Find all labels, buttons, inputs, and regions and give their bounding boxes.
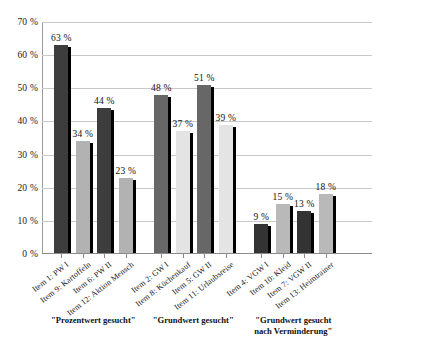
bar-value-label: 37 % — [173, 119, 194, 129]
x-tick — [326, 254, 327, 258]
y-tick-label: 20 % — [17, 183, 38, 193]
bar-shadow — [68, 47, 71, 253]
bar-fill — [119, 178, 133, 253]
x-tick — [126, 254, 127, 258]
bar: 23 % — [119, 178, 133, 253]
bar-shadow — [133, 180, 136, 253]
bar-value-label: 23 % — [116, 166, 137, 176]
bar-fill — [276, 204, 290, 253]
bar-fill — [197, 85, 211, 253]
bar: 44 % — [97, 108, 111, 253]
gridline — [42, 55, 372, 56]
x-tick — [161, 254, 162, 258]
y-axis: 0 %10 %20 %30 %40 %50 %60 %70 % — [0, 0, 38, 348]
bar-value-label: 34 % — [73, 129, 94, 139]
x-tick — [226, 254, 227, 258]
bar-shadow — [190, 133, 193, 253]
x-tick — [304, 254, 305, 258]
bar-fill — [297, 211, 311, 253]
bar-shadow — [290, 206, 293, 253]
bar-shadow — [268, 226, 271, 253]
bar: 13 % — [297, 211, 311, 253]
bar-value-label: 13 % — [294, 199, 315, 209]
bar-shadow — [233, 127, 236, 253]
bar-shadow — [311, 213, 314, 253]
bar-shadow — [111, 110, 114, 253]
bar-fill — [76, 141, 90, 253]
group-caption: "Grundwert gesucht nach Verminderung" — [228, 315, 358, 336]
bar: 39 % — [219, 125, 233, 253]
plot-area: 63 %34 %44 %23 %48 %37 %51 %39 %9 %15 %1… — [42, 22, 372, 254]
bar-fill — [254, 224, 268, 253]
y-tick-label: 10 % — [17, 216, 38, 226]
bar-chart: 0 %10 %20 %30 %40 %50 %60 %70 % 63 %34 %… — [0, 0, 436, 348]
x-axis-line — [42, 253, 372, 254]
bar: 34 % — [76, 141, 90, 253]
bar: 37 % — [176, 131, 190, 253]
y-axis-line — [42, 22, 43, 254]
bar-fill — [176, 131, 190, 253]
y-tick-label: 70 % — [17, 17, 38, 27]
bar: 48 % — [154, 95, 168, 253]
x-tick — [283, 254, 284, 258]
bar-shadow — [333, 196, 336, 253]
x-tick — [83, 254, 84, 258]
x-tick — [204, 254, 205, 258]
bar-fill — [97, 108, 111, 253]
bar: 15 % — [276, 204, 290, 253]
bar-fill — [154, 95, 168, 253]
bar-value-label: 51 % — [194, 73, 215, 83]
y-tick-label: 60 % — [17, 50, 38, 60]
bar-value-label: 15 % — [273, 192, 294, 202]
bar-value-label: 18 % — [316, 182, 337, 192]
bar-fill — [219, 125, 233, 253]
gridline — [42, 22, 372, 23]
y-tick-label: 40 % — [17, 116, 38, 126]
bar-value-label: 48 % — [151, 83, 172, 93]
bar-value-label: 63 % — [51, 33, 72, 43]
bar-fill — [319, 194, 333, 253]
bar-value-label: 9 % — [253, 212, 269, 222]
y-tick-label: 30 % — [17, 150, 38, 160]
bar-shadow — [168, 97, 171, 253]
x-tick — [261, 254, 262, 258]
x-tick — [183, 254, 184, 258]
bar-value-label: 39 % — [216, 113, 237, 123]
y-tick-label: 0 % — [22, 249, 38, 259]
bar: 63 % — [54, 45, 68, 253]
bar: 9 % — [254, 224, 268, 253]
bar: 18 % — [319, 194, 333, 253]
bar-fill — [54, 45, 68, 253]
x-tick — [61, 254, 62, 258]
bar-shadow — [90, 143, 93, 253]
bar-value-label: 44 % — [94, 96, 115, 106]
x-tick — [104, 254, 105, 258]
bar: 51 % — [197, 85, 211, 253]
y-tick-label: 50 % — [17, 83, 38, 93]
bar-shadow — [211, 87, 214, 253]
